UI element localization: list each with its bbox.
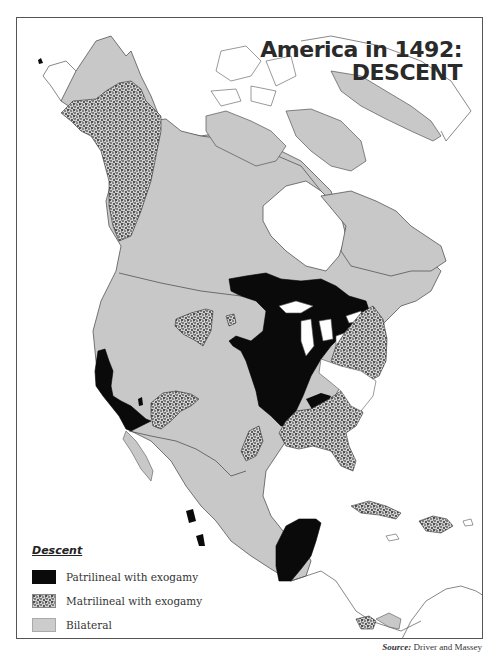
region-panama-bilateral	[376, 613, 401, 629]
legend-label-bilateral: Bilateral	[66, 619, 112, 631]
legend: Descent Patrilineal with exogamy Matrili…	[32, 544, 202, 637]
region-alaska-patrilineal-dot	[38, 58, 43, 64]
jamaica-outline	[386, 534, 399, 541]
legend-item-bilateral: Bilateral	[32, 613, 202, 637]
puerto-rico-outline	[463, 519, 473, 526]
region-cuba-matrilineal	[351, 501, 401, 519]
legend-label-matrilineal: Matrilineal with exogamy	[66, 595, 202, 607]
map-title-line2: DESCENT	[260, 61, 462, 84]
source-label: Source:	[382, 642, 411, 652]
map-title-line1: America in 1492:	[260, 38, 462, 61]
region-hispaniola-matrilineal	[419, 516, 453, 533]
south-america-outline	[401, 586, 483, 639]
legend-item-matrilineal: Matrilineal with exogamy	[32, 589, 202, 613]
region-west-mexico-patrilineal-1	[186, 509, 196, 523]
legend-title: Descent	[32, 544, 202, 557]
source-credit: Source: Driver and Massey	[382, 642, 482, 652]
legend-swatch-bilateral	[32, 618, 56, 632]
legend-item-patrilineal: Patrilineal with exogamy	[32, 565, 202, 589]
legend-label-patrilineal: Patrilineal with exogamy	[66, 571, 198, 583]
region-panama-matrilineal	[356, 616, 376, 629]
map-title: America in 1492: DESCENT	[260, 38, 462, 84]
legend-swatch-matrilineal	[32, 594, 56, 608]
source-text: Driver and Massey	[414, 642, 482, 652]
legend-swatch-patrilineal	[32, 570, 56, 584]
central-america-outline	[291, 571, 421, 631]
region-maya-patrilineal	[276, 519, 321, 581]
